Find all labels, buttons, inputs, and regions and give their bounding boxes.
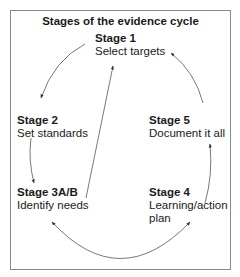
cycle-arrows — [0, 0, 240, 277]
arrow-stage1-to-stage2 — [41, 44, 85, 98]
arrow-stage2-to-stage3 — [30, 138, 34, 183]
arrow-stage3-to-stage1 — [86, 66, 113, 198]
arrow-stage5-to-stage1 — [171, 53, 203, 103]
arrow-stage3-stage4-arc — [52, 222, 190, 259]
arrow-stage4-to-stage5 — [205, 144, 211, 203]
